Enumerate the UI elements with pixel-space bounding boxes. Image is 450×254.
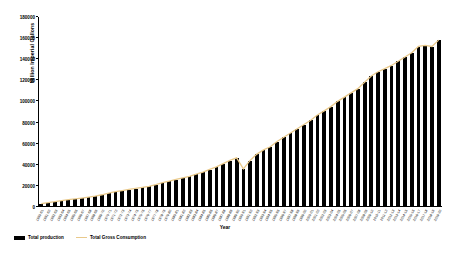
bar <box>100 195 104 207</box>
bar-item <box>429 17 436 207</box>
bar <box>66 200 70 207</box>
bar-item <box>159 17 166 207</box>
bar-item <box>415 17 422 207</box>
bar-item <box>51 17 58 207</box>
bar-item <box>328 17 335 207</box>
y-axis-tick-mark <box>36 185 38 186</box>
bar <box>114 192 118 207</box>
bar-item <box>388 17 395 207</box>
bar <box>363 82 367 207</box>
bar-item <box>112 17 119 207</box>
bar-item <box>173 17 180 207</box>
bar-item <box>321 17 328 207</box>
bar-item <box>105 17 112 207</box>
line-swatch-icon <box>76 237 87 238</box>
bar <box>147 186 151 207</box>
legend-item-total-gross-consumption: Total Gross Consumption <box>76 235 146 240</box>
bar-item <box>254 17 261 207</box>
y-axis-tick-mark <box>36 37 38 38</box>
bar <box>343 97 347 207</box>
bar-item <box>361 17 368 207</box>
bar-item <box>260 17 267 207</box>
bar-item <box>166 17 173 207</box>
bar <box>396 61 400 207</box>
y-axis-tick-mark <box>36 58 38 59</box>
bar-item <box>186 17 193 207</box>
y-axis-tick-mark <box>36 206 38 207</box>
bar <box>336 101 340 207</box>
bar-item <box>139 17 146 207</box>
bar <box>417 47 421 207</box>
bar <box>349 93 353 207</box>
bar <box>390 66 394 207</box>
bar <box>282 137 286 207</box>
bar-item <box>375 17 382 207</box>
bar-item <box>240 17 247 207</box>
bar <box>39 204 43 207</box>
bar-item <box>341 17 348 207</box>
bar <box>248 161 252 207</box>
bar-item <box>435 17 442 207</box>
bar <box>60 201 64 207</box>
bar <box>295 129 299 207</box>
legend-item-total-production: Total production <box>14 235 64 240</box>
bar-item <box>422 17 429 207</box>
bar-item <box>65 17 72 207</box>
bar-item <box>58 17 65 207</box>
bar <box>46 203 50 207</box>
bar <box>215 167 219 207</box>
bar-item <box>287 17 294 207</box>
bar-item <box>72 17 79 207</box>
bar <box>228 161 232 207</box>
bar <box>194 174 198 207</box>
bar-item <box>274 17 281 207</box>
bar-item <box>355 17 362 207</box>
bar <box>221 164 225 207</box>
bar <box>167 181 171 207</box>
bar-item <box>213 17 220 207</box>
bar-item <box>381 17 388 207</box>
bar-series <box>38 17 442 207</box>
y-axis-tick-mark <box>36 143 38 144</box>
bar <box>107 193 111 207</box>
bar <box>127 190 131 207</box>
bar <box>376 72 380 207</box>
bar-item <box>408 17 415 207</box>
bar <box>275 142 279 207</box>
bar-item <box>220 17 227 207</box>
bar <box>53 202 57 207</box>
bar <box>174 180 178 207</box>
bar <box>302 125 306 207</box>
y-axis-tick-mark <box>36 164 38 165</box>
bar-item <box>368 17 375 207</box>
bar-item <box>92 17 99 207</box>
bar <box>369 76 373 207</box>
bar <box>430 47 434 207</box>
bar-item <box>233 17 240 207</box>
plot-area: 0200004000060000800001000001200001400001… <box>38 17 442 207</box>
bar-item <box>45 17 52 207</box>
bar-item <box>301 17 308 207</box>
bar <box>289 133 293 207</box>
bar <box>423 46 427 208</box>
bar <box>141 187 145 207</box>
y-axis-tick-mark <box>36 16 38 17</box>
legend-label-total-production: Total production <box>28 235 64 240</box>
bar <box>235 158 239 207</box>
bar-item <box>247 17 254 207</box>
bar <box>262 150 266 207</box>
bar-item <box>206 17 213 207</box>
y-axis-tick-mark <box>36 79 38 80</box>
bar <box>80 198 84 207</box>
legend-label-total-gross-consumption: Total Gross Consumption <box>90 235 146 240</box>
bar-item <box>307 17 314 207</box>
bar-item <box>314 17 321 207</box>
bar <box>134 189 138 207</box>
bar-item <box>395 17 402 207</box>
bar <box>201 172 205 207</box>
bar-item <box>227 17 234 207</box>
y-axis-tick-mark <box>36 100 38 101</box>
bar <box>161 183 165 207</box>
bar-item <box>99 17 106 207</box>
bar-item <box>38 17 45 207</box>
